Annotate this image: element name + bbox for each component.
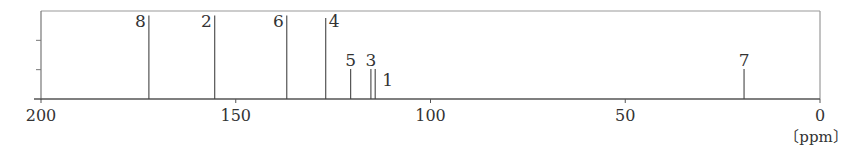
x-tick-label: 150	[220, 106, 251, 125]
peak-label: 7	[739, 50, 750, 70]
x-axis-unit-label: 〔ppm〕	[784, 128, 847, 146]
peak-label: 5	[345, 50, 356, 70]
x-tick-label: 0	[815, 106, 825, 125]
nmr-spectrum-chart: 200150100500〔ppm〕82645317 〔ppm〕	[0, 0, 864, 155]
peak-label: 4	[329, 11, 340, 31]
x-tick-label: 100	[415, 106, 446, 125]
x-tick-label: 50	[615, 106, 635, 125]
peak-label: 6	[273, 11, 284, 31]
peak-label: 2	[201, 11, 212, 31]
peak-label: 3	[365, 50, 376, 70]
peak-label: 1	[382, 70, 393, 90]
spectrum-plot: 200150100500〔ppm〕82645317	[0, 0, 864, 155]
x-tick-label: 200	[26, 106, 57, 125]
peak-label: 8	[135, 11, 146, 31]
